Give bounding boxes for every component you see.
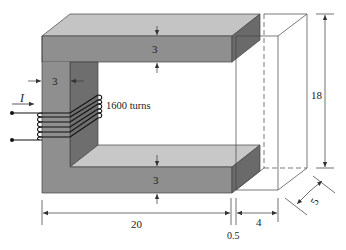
label-gap: 0.5 xyxy=(227,231,240,241)
label-top-bar-thickness: 3 xyxy=(152,44,158,55)
label-bottom-bar-thickness: 3 xyxy=(153,175,159,186)
label-height: 18 xyxy=(311,90,322,101)
label-right-width: 4 xyxy=(256,217,262,228)
bottom-bar-top-face xyxy=(70,145,260,167)
terminal-bottom xyxy=(10,138,14,142)
label-length: 20 xyxy=(131,219,142,230)
top-bar-top-face xyxy=(42,14,260,36)
label-left-leg-thickness: 3 xyxy=(52,76,58,87)
bottom-bar-front-face xyxy=(42,167,232,193)
label-turns: 1600 turns xyxy=(106,101,151,112)
label-current: I xyxy=(20,92,24,104)
top-bar-front-face xyxy=(42,36,232,62)
magnetic-core-diagram xyxy=(0,0,346,250)
terminal-top xyxy=(10,111,14,115)
